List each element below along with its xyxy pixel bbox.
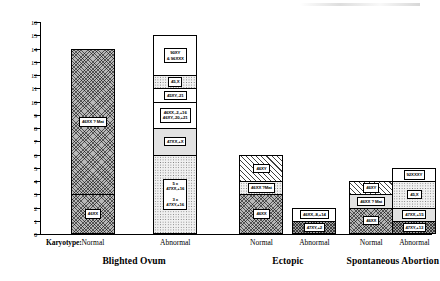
bar-segment: 46XX,-8,+14 [292, 208, 336, 221]
segment-label: 45,X [407, 190, 421, 199]
bar-segment: 45,X [392, 181, 436, 208]
bar-segment: 46XX [239, 194, 283, 234]
y-axis-tick: 15 [40, 35, 46, 36]
y-tick-label: 6 [34, 151, 37, 158]
y-axis-tick: 2 [40, 208, 46, 209]
bar-segment: 46XX ? Mat [71, 49, 115, 195]
bar-segment: 47XX,+15 [392, 208, 436, 221]
segment-label: 46XX ? Mat [357, 197, 385, 206]
karyotype-axis-label: Karyotype: [46, 238, 82, 247]
bar-segment: 5 x 47XX,+16 3 x 47XY,+16 [153, 155, 197, 235]
y-tick-label: 9 [34, 111, 37, 118]
chart-figure: 01234567891011121314151646XX46XX ? Mat5 … [0, 0, 440, 281]
y-axis-tick: 0 [40, 234, 46, 235]
y-tick-label: 13 [31, 58, 37, 65]
bar-blighted-ovum-abnormal: 5 x 47XX,+16 3 x 47XY,+1647XX,+X46XX,-2,… [153, 35, 197, 234]
segment-label: 47XY,+2 [304, 223, 325, 232]
bar-segment: 46XY [239, 155, 283, 182]
category-tick-abnormal: Abnormal [399, 238, 429, 247]
bar-segment: 47XY,+13 [392, 221, 436, 234]
y-tick-label: 12 [31, 72, 37, 79]
segment-label: 46XX ?Mat [248, 183, 275, 192]
segment-label: 46XY [363, 183, 379, 192]
y-tick-label: 7 [34, 138, 37, 145]
bar-segment: 46XX [349, 208, 393, 235]
category-tick-abnormal: Abnormal [160, 238, 190, 247]
y-axis-tick: 16 [40, 22, 46, 23]
bar-segment: 46XX [71, 194, 115, 234]
segment-label: 46XX ? Mat [79, 117, 107, 126]
bar-segment: 46XX ? Mat [349, 194, 393, 207]
y-tick-label: 0 [34, 231, 37, 238]
category-tick-normal: Normal [81, 238, 104, 247]
y-tick-label: 5 [34, 164, 37, 171]
y-axis-tick: 13 [40, 62, 46, 63]
plot-area: 01234567891011121314151646XX46XX ? Mat5 … [40, 22, 432, 234]
bar-segment: 45XY,-21 [153, 88, 197, 101]
bar-segment: 90XY & 96XXX [153, 35, 197, 75]
bar-blighted-ovum-normal: 46XX46XX ? Mat [71, 49, 115, 235]
segment-label: 46XX [363, 216, 379, 225]
group-label-blighted-ovum: Blighted Ovum [102, 256, 165, 266]
y-axis-tick: 3 [40, 194, 46, 195]
y-axis-tick: 11 [40, 88, 46, 89]
segment-label: 5 x 47XX,+16 3 x 47XY,+16 [163, 179, 187, 210]
group-label-ectopic: Ectopic [272, 256, 303, 266]
segment-label: 45XY,-21 [164, 91, 187, 100]
segment-label: 90XY & 96XXX [164, 48, 187, 63]
y-tick-label: 14 [31, 45, 37, 52]
y-axis-tick: 9 [40, 115, 46, 116]
group-label-spontaneous-abortion: Spontaneous Abortion [347, 256, 440, 266]
y-axis-tick: 8 [40, 128, 46, 129]
bar-segment: 47XY,+2 [292, 221, 336, 234]
bar-segment: 47XX,+X [153, 128, 197, 155]
bar-segment: 46XY [349, 181, 393, 194]
y-axis-tick: 6 [40, 155, 46, 156]
y-tick-label: 16 [31, 19, 37, 26]
bar-spontaneous-abortion-normal: 46XX46XX ? Mat46XY [349, 181, 393, 234]
segment-label: 47XY,+13 [403, 223, 427, 232]
segment-label: 47XX,+X [164, 137, 186, 146]
category-tick-normal: Normal [360, 238, 383, 247]
segment-label: 45,X [168, 77, 182, 86]
y-axis-tick: 4 [40, 181, 46, 182]
bar-spontaneous-abortion-abnormal: 47XY,+1347XX,+1545,X92XXXY [392, 168, 436, 234]
category-tick-abnormal: Abnormal [299, 238, 329, 247]
y-tick-label: 4 [34, 178, 37, 185]
bar-segment: 92XXXY [392, 168, 436, 181]
y-axis-tick: 14 [40, 49, 46, 50]
segment-label: 47XX,+15 [402, 210, 426, 219]
y-tick-label: 10 [31, 98, 37, 105]
segment-label: 46XX,-8,+14 [300, 210, 329, 219]
y-tick-label: 11 [31, 85, 37, 92]
bar-ectopic-normal: 46XX46XX ?Mat46XY [239, 155, 283, 235]
x-axis-line [40, 234, 432, 235]
y-tick-label: 1 [34, 217, 37, 224]
bar-segment: 46XX,-2,+16 46XY,-20,+21 [153, 102, 197, 129]
bar-segment: 46XX ?Mat [239, 181, 283, 194]
category-tick-normal: Normal [250, 238, 273, 247]
y-tick-label: 15 [31, 32, 37, 39]
y-tick-label: 8 [34, 125, 37, 132]
y-axis-tick: 12 [40, 75, 46, 76]
segment-label: 46XY [253, 164, 269, 173]
y-axis-tick: 1 [40, 221, 46, 222]
y-axis-tick: 5 [40, 168, 46, 169]
bar-ectopic-abnormal: 47XY,+246XX,-8,+14 [292, 208, 336, 235]
bar-segment: 45,X [153, 75, 197, 88]
y-tick-label: 3 [34, 191, 37, 198]
scan-artifact [300, 3, 420, 6]
segment-label: 46XX,-2,+16 46XY,-20,+21 [160, 108, 191, 123]
segment-label: 46XX [253, 209, 269, 218]
segment-label: 92XXXY [404, 170, 426, 179]
segment-label: 46XX [85, 209, 101, 218]
y-tick-label: 2 [34, 204, 37, 211]
y-axis-tick: 10 [40, 102, 46, 103]
y-axis-tick: 7 [40, 141, 46, 142]
